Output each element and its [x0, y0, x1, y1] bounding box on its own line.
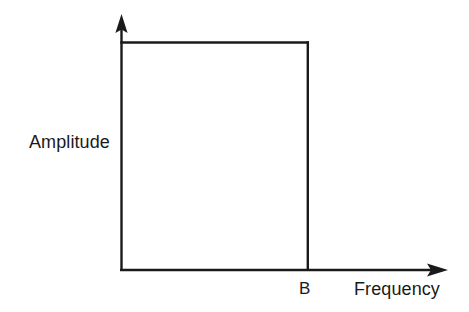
spectrum-rectangle: [120, 41, 309, 271]
y-axis-label-amplitude: Amplitude: [29, 132, 110, 152]
x-axis-label-frequency: Frequency: [354, 279, 440, 299]
spectrum-diagram-figure: Amplitude B Frequency: [0, 0, 469, 312]
x-axis: [120, 263, 448, 276]
y-axis: [115, 14, 127, 271]
x-axis-tick-label-b: B: [299, 279, 310, 299]
plot-canvas: [0, 0, 469, 312]
